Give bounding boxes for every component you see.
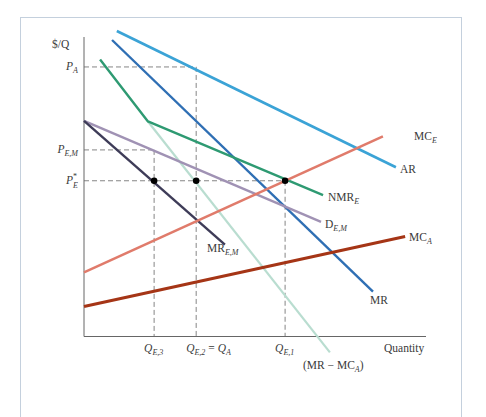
curve-MR [112,40,373,292]
x-tick-QE3: QE,3 [144,342,163,357]
y-tick-PEM: PE,M [56,143,79,158]
dot-QE3 [151,177,158,184]
x-axis-label: Quantity [384,342,424,355]
curve-MCA [84,236,405,306]
y-tick-PA: PA [65,60,78,75]
curves [84,31,405,352]
y-tick-PE: P*E [65,172,78,190]
dot-QE1 [282,177,289,184]
label-MREM: MRE,M [207,242,240,257]
curve-DEM [84,121,321,222]
x-tick-QE1: QE,1 [275,342,294,357]
curve-MRminusMCA [148,121,330,352]
curve-AR [117,31,396,167]
label-AR: AR [400,163,416,175]
label-DEM: DE,M [325,218,348,233]
x-tick-labels: QE,3QE,2 = QAQE,1 [144,342,294,357]
dot-QE2 [193,177,200,184]
curve-labels: ARMRNMRE(MR − MCA)DE,MMRE,MMCEMCA [207,130,437,374]
guide-lines [84,67,285,337]
x-tick-QE2: QE,2 = QA [186,342,231,357]
axes [84,37,426,337]
label-NMRE: NMRE [328,191,359,206]
label-MR: MR [370,294,388,306]
label-MCE: MCE [414,130,437,145]
label-MRminusMCA: (MR − MCA) [303,359,364,374]
y-tick-labels: PAPE,MP*E [56,60,79,190]
label-MCA: MCA [409,231,432,246]
y-axis-label: $/Q [52,38,70,50]
